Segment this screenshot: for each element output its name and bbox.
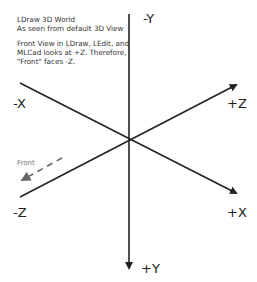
pos-z-label: +Z: [227, 97, 247, 110]
neg-z-label: -Z: [13, 206, 27, 219]
title-line-2: As seen from default 3D View: [17, 24, 123, 33]
neg-y-label: -Y: [143, 12, 154, 25]
description-line-3: "Front" faces -Z.: [17, 57, 75, 66]
description-line-2: MLCad looks at +Z. Therefore,: [17, 48, 127, 57]
pos-x-label: +X: [227, 206, 247, 219]
title-line-1: LDraw 3D World: [17, 15, 75, 24]
description-line-1: Front View in LDraw, LEdit, and: [17, 39, 129, 48]
front-label: Front: [17, 159, 35, 167]
pos-y-label: +Y: [141, 262, 160, 275]
x-axis-line: [20, 83, 236, 193]
z-axis-line: [20, 85, 236, 197]
neg-x-label: -X: [13, 97, 26, 110]
